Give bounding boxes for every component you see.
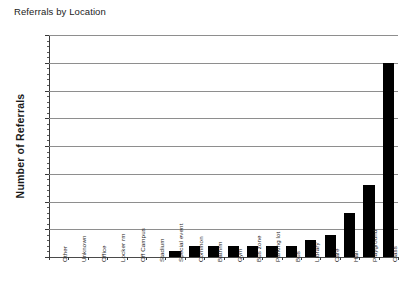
x-tick: [320, 257, 321, 260]
x-axis-label: Unknown: [80, 236, 87, 263]
gridline-35: [49, 63, 398, 64]
gridline-10: [49, 202, 398, 203]
x-tick: [185, 257, 186, 260]
x-tick: [88, 257, 89, 260]
x-tick: [224, 257, 225, 260]
x-tick: [282, 257, 283, 260]
x-tick: [301, 257, 302, 260]
x-axis-label: Bus: [294, 251, 301, 262]
x-tick: [243, 257, 244, 260]
x-axis-label: Office: [100, 245, 107, 262]
bar: [383, 63, 394, 257]
x-axis-label: Library: [313, 242, 320, 262]
x-axis-label: Parking lot: [274, 232, 281, 262]
x-tick: [146, 257, 147, 260]
x-tick: [262, 257, 263, 260]
x-axis-label: Common: [197, 236, 204, 262]
x-axis-label: Bus zone: [255, 235, 262, 262]
x-axis-label: Bathrm: [216, 241, 223, 262]
x-axis-label: Special event: [177, 224, 184, 262]
x-tick: [204, 257, 205, 260]
x-axis-label: Playground: [371, 230, 378, 262]
gridline-15: [49, 174, 398, 175]
x-axis-label: Class: [391, 246, 398, 262]
gridline-25: [49, 118, 398, 119]
x-axis-label: Gym: [236, 249, 243, 262]
x-axis-label: Other: [61, 246, 68, 262]
gridline-20: [49, 146, 398, 147]
x-tick: [68, 257, 69, 260]
chart-title: Referrals by Location: [14, 6, 106, 17]
gridline-40: [49, 35, 398, 36]
x-axis-label: Off Campus: [139, 228, 146, 262]
y-axis-title: Number of Referrals: [12, 35, 28, 257]
x-tick: [359, 257, 360, 260]
x-axis-label: Locker rm: [119, 234, 126, 262]
gridline-30: [49, 91, 398, 92]
referrals-bar-chart: Referrals by Location Number of Referral…: [0, 0, 410, 292]
plot-area: [49, 35, 398, 257]
y-axis-title-text: Number of Referrals: [14, 94, 26, 199]
x-tick: [49, 257, 50, 260]
x-tick: [398, 257, 399, 260]
x-axis-label: Cafe: [333, 249, 340, 262]
x-tick: [107, 257, 108, 260]
x-tick: [127, 257, 128, 260]
x-axis-label: Hall: [352, 251, 359, 262]
x-tick: [379, 257, 380, 260]
x-axis-label: Stadium: [158, 239, 165, 262]
x-tick: [165, 257, 166, 260]
